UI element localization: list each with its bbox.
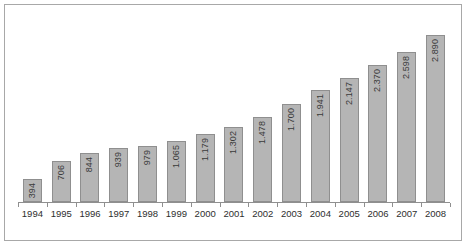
bar-slot: 2.370 [364, 26, 393, 202]
x-axis-label: 2001 [220, 207, 249, 223]
x-axis-label: 2003 [277, 207, 306, 223]
bar[interactable]: 2.370 [368, 65, 387, 202]
x-axis-label: 1994 [18, 207, 47, 223]
x-axis-label: 2006 [364, 207, 393, 223]
bar-value-label: 2.598 [397, 56, 416, 79]
bar-value-label: 844 [80, 157, 99, 172]
bar-slot: 939 [104, 26, 133, 202]
bar-value-label: 939 [109, 152, 128, 167]
chart-inner-panel: 3947068449399791.0651.1791.3021.4781.700… [10, 10, 456, 235]
x-axis-tick [450, 203, 451, 207]
plot-area: 3947068449399791.0651.1791.3021.4781.700… [18, 26, 450, 202]
bar[interactable]: 979 [138, 146, 157, 202]
bar[interactable]: 394 [23, 179, 42, 202]
bar[interactable]: 2.147 [340, 78, 359, 202]
x-axis-label: 1996 [76, 207, 105, 223]
bar-value-label: 1.478 [253, 121, 272, 144]
bar-slot: 2.598 [392, 26, 421, 202]
x-axis-label: 2005 [335, 207, 364, 223]
bar[interactable]: 1.065 [167, 141, 186, 202]
bar-value-label: 1.302 [224, 131, 243, 154]
bar-series: 3947068449399791.0651.1791.3021.4781.700… [18, 26, 450, 202]
x-axis-label: 2008 [421, 207, 450, 223]
bar[interactable]: 1.302 [224, 127, 243, 202]
chart-frame: 3947068449399791.0651.1791.3021.4781.700… [4, 4, 462, 241]
bar-slot: 1.700 [277, 26, 306, 202]
bar[interactable]: 1.179 [196, 134, 215, 202]
x-axis-label: 1995 [47, 207, 76, 223]
x-axis-label: 2007 [392, 207, 421, 223]
bar-slot: 1.179 [191, 26, 220, 202]
bar-slot: 844 [76, 26, 105, 202]
x-axis-label: 2004 [306, 207, 335, 223]
bar[interactable]: 1.478 [253, 117, 272, 202]
x-axis-label: 2002 [248, 207, 277, 223]
bar-slot: 1.065 [162, 26, 191, 202]
bar-slot: 1.302 [220, 26, 249, 202]
x-axis-label: 1997 [104, 207, 133, 223]
bar-value-label: 706 [52, 165, 71, 180]
bar-value-label: 1.065 [167, 145, 186, 168]
x-axis-labels: 1994199519961997199819992000200120022003… [18, 207, 450, 223]
bar-value-label: 2.370 [368, 69, 387, 92]
bar-slot: 1.941 [306, 26, 335, 202]
bar-slot: 2.890 [421, 26, 450, 202]
bar[interactable]: 2.890 [426, 35, 445, 202]
bar[interactable]: 939 [109, 148, 128, 202]
bar-value-label: 394 [23, 183, 42, 198]
bar-value-label: 2.890 [426, 39, 445, 62]
bar[interactable]: 844 [80, 153, 99, 202]
bar-slot: 1.478 [248, 26, 277, 202]
bar-slot: 706 [47, 26, 76, 202]
bar[interactable]: 706 [52, 161, 71, 202]
bar-value-label: 2.147 [340, 82, 359, 105]
bar[interactable]: 2.598 [397, 52, 416, 202]
bar[interactable]: 1.700 [282, 104, 301, 202]
bar-slot: 979 [133, 26, 162, 202]
x-axis-label: 1999 [162, 207, 191, 223]
bar-value-label: 979 [138, 150, 157, 165]
bar-slot: 394 [18, 26, 47, 202]
bar-value-label: 1.700 [282, 108, 301, 131]
bar-value-label: 1.179 [196, 138, 215, 161]
bar[interactable]: 1.941 [311, 90, 330, 202]
bar-value-label: 1.941 [311, 94, 330, 117]
x-axis-label: 2000 [191, 207, 220, 223]
bar-slot: 2.147 [335, 26, 364, 202]
x-axis-label: 1998 [133, 207, 162, 223]
